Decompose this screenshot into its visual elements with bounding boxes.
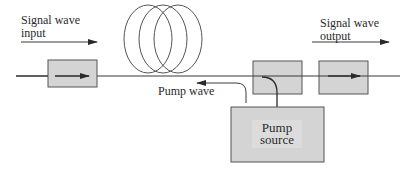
signal-input-label-line2: input bbox=[21, 27, 46, 40]
fiber-amplifier-diagram: Signal wave input Signal wave output Pum… bbox=[0, 0, 415, 170]
signal-output-label-line2: output bbox=[320, 30, 351, 43]
pump-source-label-line2: source bbox=[252, 133, 302, 147]
wdm-coupler bbox=[253, 61, 302, 107]
output-isolator bbox=[319, 61, 368, 94]
pump-wave-label: Pump wave bbox=[158, 85, 214, 98]
fiber-coil bbox=[124, 5, 202, 73]
input-isolator bbox=[16, 60, 97, 87]
